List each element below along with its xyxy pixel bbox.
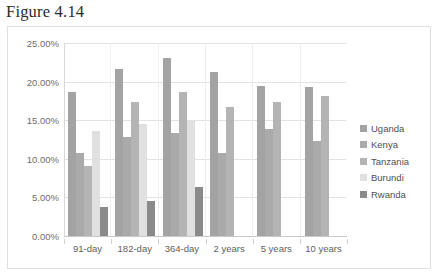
legend-swatch-icon [360, 174, 367, 181]
bar-tanzania[interactable] [321, 96, 329, 236]
bar-burundi[interactable] [139, 124, 147, 236]
bar-kenya[interactable] [265, 129, 273, 236]
bar-group [206, 43, 253, 236]
x-axis-line [64, 236, 347, 237]
legend-item-kenya[interactable]: Kenya [360, 137, 432, 154]
legend-item-rwanda[interactable]: Rwanda [360, 186, 432, 203]
y-axis-tick-labels: 0.00%5.00%10.00%15.00%20.00%25.00% [8, 43, 59, 236]
bar-uganda[interactable] [68, 92, 76, 236]
chart-legend: UgandaKenyaTanzaniaBurundiRwanda [360, 120, 432, 203]
x-axis-tick-labels: 91-day182-day364-day2 years5 years10 yea… [64, 239, 347, 259]
x-axis-tick-mark [300, 239, 301, 244]
legend-label: Tanzania [371, 156, 409, 167]
bar-group-bars [64, 43, 110, 236]
bar-group-bars [253, 43, 299, 236]
x-axis-tick-mark [64, 239, 65, 244]
bar-kenya[interactable] [218, 153, 226, 236]
bar-kenya[interactable] [313, 141, 321, 236]
legend-item-tanzania[interactable]: Tanzania [360, 153, 432, 170]
legend-label: Rwanda [371, 189, 406, 200]
bar-uganda[interactable] [210, 72, 218, 236]
bar-uganda[interactable] [163, 58, 171, 236]
bar-burundi[interactable] [92, 131, 100, 236]
bar-kenya[interactable] [76, 153, 84, 236]
x-axis-tick-label: 182-day [111, 239, 158, 259]
bar-uganda[interactable] [257, 86, 265, 236]
bar-uganda[interactable] [305, 87, 313, 236]
bar-group [159, 43, 206, 236]
x-axis-tick-label: 364-day [158, 239, 205, 259]
legend-swatch-icon [360, 125, 367, 132]
bar-rwanda[interactable] [100, 207, 108, 236]
x-axis-tick-mark [158, 239, 159, 244]
legend-swatch-icon [360, 158, 367, 165]
y-axis-tick-label: 15.00% [27, 115, 59, 126]
bar-uganda[interactable] [115, 69, 123, 236]
x-axis-tick-mark [111, 239, 112, 244]
y-axis-tick-label: 5.00% [32, 192, 59, 203]
x-axis-tick-label: 2 years [206, 239, 253, 259]
bar-tanzania[interactable] [131, 102, 139, 236]
bar-group-bars [206, 43, 252, 236]
bar-group-bars [111, 43, 157, 236]
bar-groups [64, 43, 347, 236]
bar-burundi[interactable] [187, 121, 195, 236]
page-title: Figure 4.14 [6, 2, 84, 22]
bar-kenya[interactable] [171, 133, 179, 236]
bar-tanzania[interactable] [179, 92, 187, 236]
chart-frame: 0.00%5.00%10.00%15.00%20.00%25.00% 91-da… [7, 26, 431, 269]
bar-rwanda[interactable] [195, 187, 203, 236]
bar-rwanda[interactable] [147, 201, 155, 237]
legend-label: Kenya [371, 139, 398, 150]
bar-tanzania[interactable] [226, 107, 234, 236]
y-axis-tick-label: 20.00% [27, 76, 59, 87]
x-axis-tick-label: 91-day [64, 239, 111, 259]
legend-label: Uganda [371, 123, 404, 134]
bar-tanzania[interactable] [273, 102, 281, 236]
bar-kenya[interactable] [123, 137, 131, 236]
bar-group-bars [159, 43, 205, 236]
legend-item-uganda[interactable]: Uganda [360, 120, 432, 137]
x-axis-tick-mark [206, 239, 207, 244]
bar-group [111, 43, 158, 236]
y-axis-tick-label: 0.00% [32, 231, 59, 242]
x-axis-tick-label: 5 years [253, 239, 300, 259]
legend-swatch-icon [360, 191, 367, 198]
legend-item-burundi[interactable]: Burundi [360, 170, 432, 187]
y-axis-tick-label: 10.00% [27, 153, 59, 164]
bar-tanzania[interactable] [84, 166, 92, 236]
bar-group [253, 43, 300, 236]
x-axis-tick-mark [347, 239, 348, 244]
legend-swatch-icon [360, 141, 367, 148]
legend-label: Burundi [371, 172, 404, 183]
bar-group [301, 43, 347, 236]
x-axis-tick-label: 10 years [300, 239, 347, 259]
x-axis-tick-mark [253, 239, 254, 244]
y-axis-tick-label: 25.00% [27, 38, 59, 49]
bar-group-bars [301, 43, 347, 236]
bar-group [64, 43, 111, 236]
